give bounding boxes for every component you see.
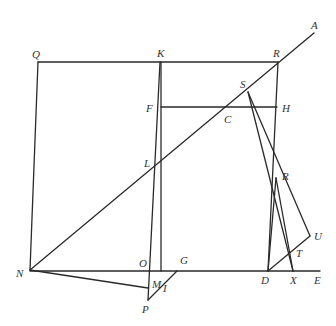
point-label-R: R xyxy=(281,170,289,182)
point-label-Q: Q xyxy=(32,48,40,60)
point-label-E: E xyxy=(313,274,321,286)
point-label-C: C xyxy=(224,113,232,125)
point-label-K: K xyxy=(156,47,165,59)
point-label-O: O xyxy=(139,257,147,269)
point-label-X: X xyxy=(289,274,298,286)
point-label-P: P xyxy=(141,303,149,315)
diagram-segments xyxy=(30,33,320,300)
segment-line-N-M xyxy=(30,270,148,288)
point-label-G: G xyxy=(180,254,188,266)
point-label-I: I xyxy=(162,282,168,294)
segment-line-K-P xyxy=(148,62,160,300)
geometric-diagram: QKRAFSHCLRUTNOGMIDXEP xyxy=(0,0,336,326)
diagram-canvas: QKRAFSHCLRUTNOGMIDXEP xyxy=(0,0,336,326)
point-label-S: S xyxy=(240,78,246,90)
point-label-N: N xyxy=(15,267,24,279)
point-label-A: A xyxy=(310,19,318,31)
point-label-D: D xyxy=(260,274,269,286)
segment-left-line-QN xyxy=(30,62,38,270)
point-label-H: H xyxy=(281,102,291,114)
point-label-U: U xyxy=(314,230,323,242)
point-label-R: R xyxy=(272,47,280,59)
point-label-F: F xyxy=(145,102,153,114)
point-label-T: T xyxy=(296,247,303,259)
point-label-M: M xyxy=(151,278,162,290)
segment-line-D-U xyxy=(268,236,310,271)
point-label-L: L xyxy=(143,157,150,169)
segment-line-R-D xyxy=(268,62,278,271)
